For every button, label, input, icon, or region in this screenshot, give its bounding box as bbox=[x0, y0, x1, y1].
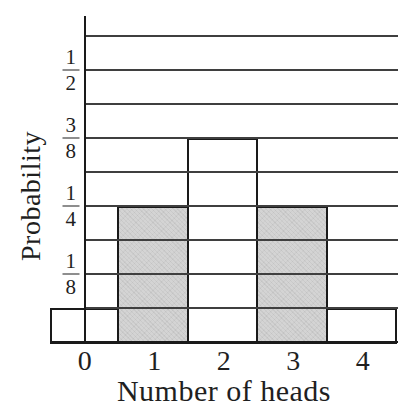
y-axis-title: Probability bbox=[15, 131, 47, 261]
x-tick-label-4: 4 bbox=[356, 347, 370, 375]
fraction-numerator: 1 bbox=[63, 183, 80, 207]
fraction-denominator: 8 bbox=[63, 139, 80, 162]
fraction-denominator: 2 bbox=[63, 71, 80, 94]
x-axis-title: Number of heads bbox=[117, 374, 331, 408]
y-tick-label-1-8: 18 bbox=[63, 251, 80, 298]
y-tick-label-1-2: 12 bbox=[63, 47, 80, 94]
x-tick-label-2: 2 bbox=[217, 347, 231, 375]
fraction-numerator: 1 bbox=[63, 47, 80, 71]
labels-layer: Probability Number of heads 12381418 012… bbox=[0, 0, 418, 415]
fraction-numerator: 1 bbox=[63, 251, 80, 275]
x-tick-label-3: 3 bbox=[286, 347, 300, 375]
fraction-numerator: 3 bbox=[63, 115, 80, 139]
fraction-denominator: 4 bbox=[63, 207, 80, 230]
fraction-denominator: 8 bbox=[63, 275, 80, 298]
x-tick-label-1: 1 bbox=[147, 347, 161, 375]
x-tick-label-0: 0 bbox=[78, 347, 92, 375]
y-tick-label-3-8: 38 bbox=[63, 115, 80, 162]
probability-histogram-figure: Probability Number of heads 12381418 012… bbox=[0, 0, 418, 415]
y-tick-label-1-4: 14 bbox=[63, 183, 80, 230]
